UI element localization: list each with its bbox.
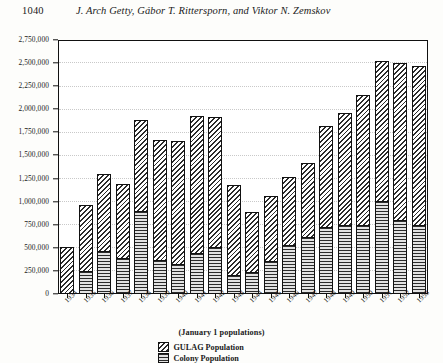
bar-segment-colony bbox=[338, 226, 352, 294]
bar-segment-gulag bbox=[245, 212, 259, 273]
bar-segment-gulag bbox=[97, 174, 111, 251]
bar-segment-gulag bbox=[116, 184, 130, 260]
bar-segment-gulag bbox=[60, 247, 74, 294]
bar-segment-colony bbox=[356, 226, 370, 294]
y-axis-tick-label: 0 bbox=[45, 290, 49, 298]
bar-column bbox=[190, 116, 204, 294]
chart-legend: GULAG Population Colony Population bbox=[0, 342, 443, 363]
bar-segment-gulag bbox=[134, 120, 148, 212]
x-axis: 1934193519361937193819391940194119421943… bbox=[58, 294, 428, 328]
bar-segment-gulag bbox=[338, 113, 352, 225]
bar-column bbox=[227, 185, 241, 294]
bar-segment-gulag bbox=[153, 140, 167, 262]
y-axis-tick-label: 2,250,000 bbox=[19, 82, 49, 90]
bar-segment-colony bbox=[412, 226, 426, 294]
bar-segment-gulag bbox=[171, 141, 185, 265]
bar-segment-gulag bbox=[208, 117, 222, 248]
bar-column bbox=[171, 141, 185, 294]
bar-column bbox=[60, 247, 74, 294]
bar-segment-gulag bbox=[190, 116, 204, 255]
bar-segment-colony bbox=[393, 221, 407, 294]
bar-segment-colony bbox=[208, 248, 222, 294]
bar-segment-gulag bbox=[79, 205, 93, 272]
legend-label-colony: Colony Population bbox=[174, 354, 239, 363]
bar-column bbox=[393, 63, 407, 294]
x-axis-caption: (January 1 populations) bbox=[0, 328, 443, 337]
bar-segment-gulag bbox=[264, 196, 278, 262]
bar-column bbox=[338, 113, 352, 294]
bar-column bbox=[412, 66, 426, 294]
bar-segment-gulag bbox=[356, 95, 370, 226]
legend-item-colony: Colony Population bbox=[158, 353, 286, 363]
bar-segment-gulag bbox=[301, 163, 315, 238]
bar-segment-colony bbox=[375, 202, 389, 294]
page-folio-number: 1040 bbox=[22, 5, 44, 16]
bar-column bbox=[375, 61, 389, 294]
y-axis-tick-label: 1,750,000 bbox=[19, 128, 49, 136]
legend-swatch-gulag-icon bbox=[158, 342, 169, 352]
bar-column bbox=[356, 95, 370, 294]
bar-column bbox=[97, 174, 111, 294]
bar-segment-colony bbox=[134, 212, 148, 294]
legend-item-gulag: GULAG Population bbox=[158, 342, 286, 352]
y-axis-tick-label: 750,000 bbox=[24, 221, 49, 229]
bar-segment-gulag bbox=[282, 177, 296, 246]
bar-segment-gulag bbox=[319, 126, 333, 228]
legend-label-gulag: GULAG Population bbox=[174, 343, 244, 352]
bar-column bbox=[153, 140, 167, 294]
y-axis-tick-label: 1,250,000 bbox=[19, 175, 49, 183]
legend-swatch-colony-icon bbox=[158, 353, 169, 363]
page-author-line: J. Arch Getty, Gábor T. Rittersporn, and… bbox=[76, 5, 330, 16]
bar-column bbox=[208, 117, 222, 294]
bar-segment-gulag bbox=[227, 185, 241, 276]
figure-gulag-population-chart: 0250,000500,000750,0001,000,0001,250,000… bbox=[0, 28, 443, 351]
bar-segment-gulag bbox=[393, 63, 407, 221]
bar-column bbox=[282, 177, 296, 294]
y-axis-tick-label: 500,000 bbox=[24, 244, 49, 252]
bar-column bbox=[245, 212, 259, 294]
y-axis-tick-label: 2,500,000 bbox=[19, 59, 49, 67]
y-axis-tick-label: 250,000 bbox=[24, 267, 49, 275]
bar-segment-colony bbox=[97, 252, 111, 294]
y-axis-tick-label: 1,000,000 bbox=[19, 198, 49, 206]
bar-segment-gulag bbox=[412, 66, 426, 226]
y-axis: 0250,000500,000750,0001,000,0001,250,000… bbox=[0, 40, 58, 294]
bar-column bbox=[79, 205, 93, 294]
bar-segment-colony bbox=[190, 254, 204, 294]
bar-series-container bbox=[58, 40, 428, 294]
bar-column bbox=[319, 126, 333, 294]
bar-segment-colony bbox=[282, 246, 296, 294]
y-axis-tick-label: 1,500,000 bbox=[19, 151, 49, 159]
page-running-head: 1040 J. Arch Getty, Gábor T. Rittersporn… bbox=[0, 5, 443, 21]
bar-column bbox=[116, 184, 130, 294]
bar-column bbox=[134, 120, 148, 294]
bar-segment-colony bbox=[301, 238, 315, 294]
bar-segment-gulag bbox=[375, 61, 389, 203]
bar-segment-colony bbox=[319, 228, 333, 294]
bar-column bbox=[264, 196, 278, 294]
bar-column bbox=[301, 163, 315, 294]
y-axis-tick-label: 2,000,000 bbox=[19, 105, 49, 113]
y-axis-tick-label: 2,750,000 bbox=[19, 36, 49, 44]
